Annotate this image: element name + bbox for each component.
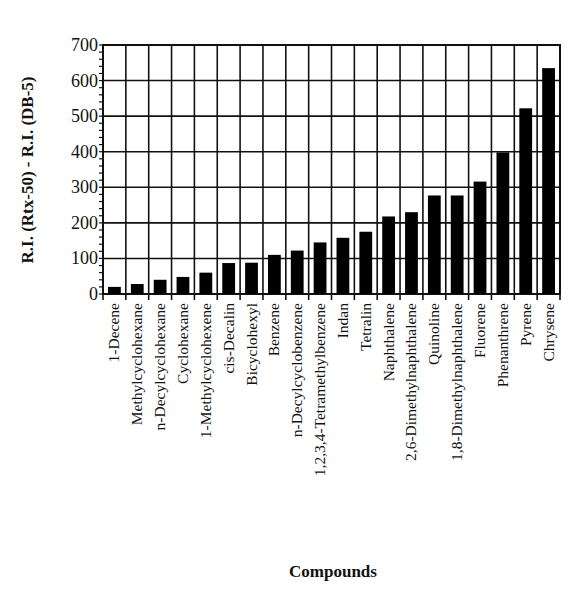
- x-tick-label: n-Decylcyclobenzene: [288, 303, 305, 437]
- x-tick-label: 1,2,3,4-Tetramethylbenzene: [311, 303, 328, 476]
- bar: [451, 195, 464, 294]
- bar-chart: 01002003004005006007001-DeceneMethylcycl…: [0, 0, 584, 589]
- y-tick-label: 200: [71, 213, 98, 233]
- y-tick-label: 300: [71, 177, 98, 197]
- x-tick-label: 1-Methylcyclohexene: [197, 303, 214, 438]
- bar: [199, 273, 212, 294]
- x-tick-label: Indan: [334, 303, 351, 339]
- y-tick-label: 100: [71, 248, 98, 268]
- x-tick-label: Fluorene: [471, 303, 488, 358]
- bar: [154, 280, 167, 294]
- bar: [177, 277, 190, 294]
- bar: [474, 182, 487, 294]
- bar: [405, 212, 418, 294]
- x-axis-label: Compounds: [289, 562, 377, 582]
- y-tick-label: 400: [71, 142, 98, 162]
- x-tick-label: Benzene: [265, 303, 282, 356]
- y-axis-label: R.I. (Rtx-50) - R.I. (DB-5): [18, 77, 38, 264]
- x-tick-label: Quinoline: [425, 303, 442, 365]
- x-tick-label: Pyrene: [517, 303, 534, 346]
- y-tick-label: 0: [89, 284, 98, 304]
- x-tick-label: Methylcyclohexane: [128, 303, 145, 425]
- x-tick-label: Tetralin: [357, 303, 374, 351]
- x-tick-label: Chrysene: [540, 303, 557, 362]
- x-tick-label: 2,6-Dimethylnaphthalene: [402, 303, 419, 461]
- bar: [519, 108, 532, 294]
- chart-canvas: 01002003004005006007001-DeceneMethylcycl…: [0, 0, 584, 589]
- bar: [428, 195, 441, 294]
- y-tick-label: 500: [71, 106, 98, 126]
- bar: [382, 216, 395, 294]
- bar: [291, 251, 304, 294]
- bar: [314, 242, 327, 294]
- bar: [131, 284, 144, 294]
- bar: [496, 152, 509, 294]
- x-tick-label: 1,8-Dimethylnaphthalene: [448, 303, 465, 461]
- x-tick-label: Naphthalene: [380, 303, 397, 381]
- bar: [222, 263, 235, 294]
- y-tick-label: 700: [71, 35, 98, 55]
- x-tick-label: 1-Decene: [105, 303, 122, 362]
- x-tick-label: Bicyclohexyl: [243, 303, 260, 386]
- bar: [108, 287, 121, 294]
- y-tick-label: 600: [71, 71, 98, 91]
- bar: [268, 255, 281, 294]
- x-tick-label: Phenanthrene: [494, 303, 511, 387]
- bar: [245, 263, 258, 294]
- x-tick-label: Cyclohexane: [174, 303, 191, 384]
- bar: [542, 68, 555, 294]
- bar: [359, 232, 372, 294]
- x-tick-label: cis-Decalin: [220, 303, 237, 374]
- x-tick-label: n-Decylcyclohexane: [151, 303, 168, 430]
- bar: [337, 238, 350, 294]
